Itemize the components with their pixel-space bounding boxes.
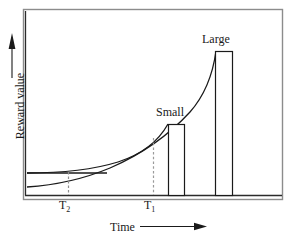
small-reward-bar [169, 125, 185, 196]
y-axis-label: Reward value [14, 66, 26, 146]
large-reward-bar [216, 52, 233, 196]
hyperbolic-discounting-figure: Reward value Time Small Large T2 T1 [0, 0, 290, 237]
t2-tick-label: T2 [59, 199, 70, 214]
x-axis-label: Time [110, 221, 135, 233]
t1-subscript: 1 [151, 205, 155, 214]
t1-tick-label: T1 [144, 199, 155, 214]
small-reward-label: Small [156, 106, 184, 118]
large-reward-label: Large [202, 33, 230, 45]
x-axis-arrow-icon [140, 223, 207, 230]
t2-subscript: 2 [66, 205, 70, 214]
